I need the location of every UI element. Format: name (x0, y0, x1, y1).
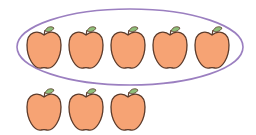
apple-icon-grouped (69, 27, 103, 68)
apple-icon-grouped (111, 27, 145, 68)
apple-icon-grouped (153, 27, 187, 68)
apple-icon-grouped (27, 27, 61, 68)
apple-icon-ungrouped (111, 89, 145, 130)
apple-icon-grouped (195, 27, 229, 68)
apple-icon-ungrouped (27, 89, 61, 130)
apple-grouping-figure (0, 0, 256, 135)
apple-icon-ungrouped (69, 89, 103, 130)
